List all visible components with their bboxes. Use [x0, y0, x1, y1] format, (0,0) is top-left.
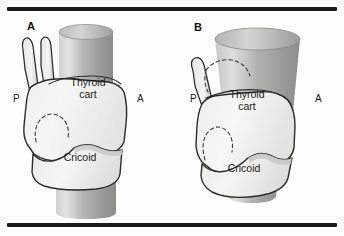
panel-b-letter: B	[194, 21, 202, 33]
panel-a-illustration	[0, 14, 172, 224]
panel-a-cricoid-label: Cricoid	[50, 151, 110, 163]
top-rule-icon	[7, 7, 337, 11]
panel-b-posterior-label: P	[190, 93, 197, 104]
panel-b-anterior-label: A	[315, 93, 322, 104]
anatomy-figure: A P A Thyroid cart Cricoid	[0, 0, 344, 236]
panel-a: A P A Thyroid cart Cricoid	[0, 14, 172, 224]
panel-a-posterior-label: P	[13, 93, 20, 104]
panel-a-thyroid-label: Thyroid cart	[58, 76, 118, 100]
panel-b-illustration	[172, 14, 344, 224]
panel-b: B P A Thyroid cart Cricoid	[172, 14, 344, 224]
panel-a-anterior-label: A	[137, 93, 144, 104]
panel-b-thyroid-label: Thyroid cart	[216, 88, 278, 112]
panel-b-cricoid-label: Cricoid	[213, 162, 275, 174]
panel-a-letter: A	[27, 20, 35, 32]
